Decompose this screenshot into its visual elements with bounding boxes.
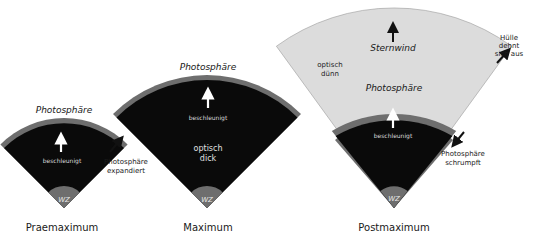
panel-maximum [113,75,301,208]
core-label: beschleunigt [43,157,82,165]
side-note-top-line3: sich aus [495,50,524,58]
photosphere-label: Photosphäre [366,83,423,93]
panel-title: Postmaximum [358,222,429,233]
photosphere-label: Photosphäre [36,105,93,115]
optical-depth-line2: dünn [321,70,339,78]
wz-label: WZ [201,196,213,204]
side-note-bottom-line2: schrumpft [445,159,481,167]
wind-label: Sternwind [370,43,416,53]
side-note-top-line2: dehnt [499,42,520,50]
diagram-canvas: Photosphäre beschleunigt WZ Photosphäre … [0,0,534,241]
shrink-arrow-icon [455,132,464,143]
optical-depth-line1: optisch [317,61,342,69]
panel-title: Praemaximum [26,222,99,233]
wz-label: WZ [58,196,70,204]
core-label: beschleunigt [374,132,413,140]
photosphere-label: Photosphäre [180,62,237,72]
side-note-line1: Photosphäre [104,158,148,166]
side-note-bottom-line1: Photosphäre [441,150,485,158]
panel-title: Maximum [183,222,232,233]
wz-label: WZ [388,195,400,203]
side-note-line2: expandiert [107,167,145,175]
optical-depth-line1: optisch [194,144,223,153]
core-label: beschleunigt [189,114,228,122]
optical-depth-line2: dick [200,154,217,163]
side-note-top-line1: Hülle [500,34,518,42]
panel-postmaximum [276,8,511,208]
